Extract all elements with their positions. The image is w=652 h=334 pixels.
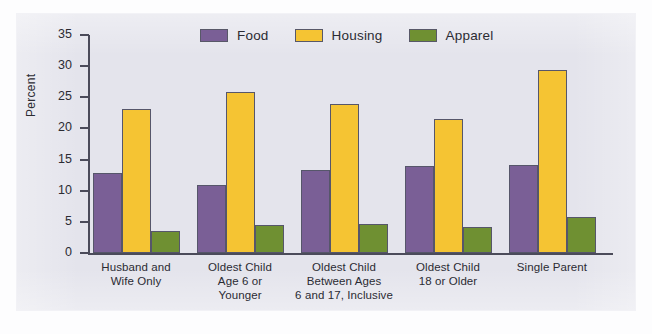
chart-legend: FoodHousingApparel (200, 28, 519, 43)
chart-page: FoodHousingApparel 05101520253035 Percen… (0, 0, 652, 334)
legend-label: Housing (332, 28, 383, 43)
bar-group (296, 35, 392, 253)
bar-housing (538, 70, 567, 253)
legend-entry-housing: Housing (295, 28, 383, 43)
y-tick-label-10: 10 (46, 183, 72, 197)
bar-apparel (567, 217, 596, 253)
legend-label: Food (237, 28, 269, 43)
y-tick-label-20: 20 (46, 120, 72, 134)
bar-group (192, 35, 288, 253)
bar-housing (226, 92, 255, 253)
bar-apparel (463, 227, 492, 253)
bar-group (400, 35, 496, 253)
plot-area (89, 35, 609, 253)
y-axis-title: Percent (24, 74, 38, 117)
legend-entry-apparel: Apparel (409, 28, 494, 43)
category-label-line: 6 and 17, Inclusive (274, 288, 414, 302)
legend-swatch-apparel-icon (409, 29, 437, 42)
x-axis-baseline (88, 253, 613, 255)
bar-apparel (359, 224, 388, 253)
y-tick-label-25: 25 (46, 89, 72, 103)
bar-food (93, 173, 122, 253)
bar-housing (330, 104, 359, 253)
legend-entry-food: Food (200, 28, 269, 43)
bar-food (405, 166, 434, 253)
bar-group (88, 35, 184, 253)
legend-swatch-food-icon (200, 29, 228, 42)
bar-food (509, 165, 538, 253)
y-tick-label-0: 0 (46, 245, 72, 259)
y-tick-label-15: 15 (46, 152, 72, 166)
y-tick-label-30: 30 (46, 58, 72, 72)
legend-label: Apparel (446, 28, 494, 43)
bar-apparel (255, 225, 284, 253)
category-label-line: Single Parent (482, 260, 622, 274)
bar-food (197, 185, 226, 254)
y-tick-label-5: 5 (46, 214, 72, 228)
bar-food (301, 170, 330, 253)
y-tick-label-35: 35 (46, 27, 72, 41)
legend-swatch-housing-icon (295, 29, 323, 42)
bar-apparel (151, 231, 180, 253)
category-label-4: Single Parent (482, 260, 622, 274)
bar-housing (122, 109, 151, 253)
category-label-line: 18 or Older (378, 274, 518, 288)
bar-housing (434, 119, 463, 253)
bar-group (504, 35, 600, 253)
